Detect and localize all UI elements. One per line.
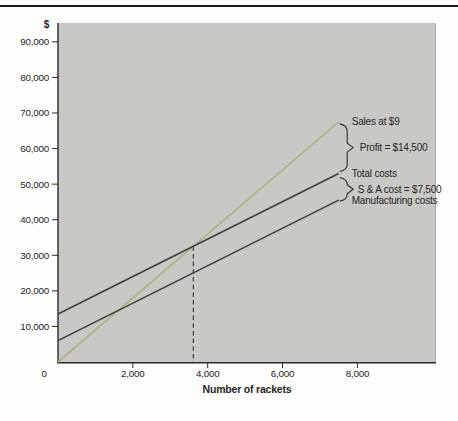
sales-line-label: Sales at $9 bbox=[352, 116, 400, 127]
sa-cost-annotation: S & A cost = $7,500 bbox=[358, 184, 442, 195]
breakeven-chart: 10,00020,00030,00040,00050,00060,00070,0… bbox=[0, 0, 458, 421]
y-tick-label: 50,000 bbox=[20, 179, 50, 190]
y-tick-label: 80,000 bbox=[20, 72, 50, 83]
manufacturing-costs-line-label: Manufacturing costs bbox=[352, 195, 438, 206]
x-axis-title: Number of rackets bbox=[36, 383, 458, 395]
y-tick-label: 30,000 bbox=[20, 250, 50, 261]
y-tick-label: 40,000 bbox=[20, 214, 50, 225]
x-tick-label: 4,000 bbox=[196, 368, 220, 379]
x-tick-label: 2,000 bbox=[121, 368, 145, 379]
x-tick-label: 0 bbox=[41, 368, 47, 379]
page: $ 10,00020,00030,00040,00050,00060,00070… bbox=[0, 0, 458, 421]
x-tick-label: 6,000 bbox=[271, 368, 295, 379]
y-tick-label: 60,000 bbox=[20, 143, 50, 154]
profit-annotation: Profit = $14,500 bbox=[360, 142, 428, 153]
y-tick-label: 90,000 bbox=[20, 36, 50, 47]
y-tick-label: 70,000 bbox=[20, 107, 50, 118]
y-tick-label: 20,000 bbox=[20, 285, 50, 296]
y-tick-label: 10,000 bbox=[20, 321, 50, 332]
total-costs-line-label: Total costs bbox=[352, 168, 397, 179]
x-tick-label: 8,000 bbox=[346, 368, 370, 379]
